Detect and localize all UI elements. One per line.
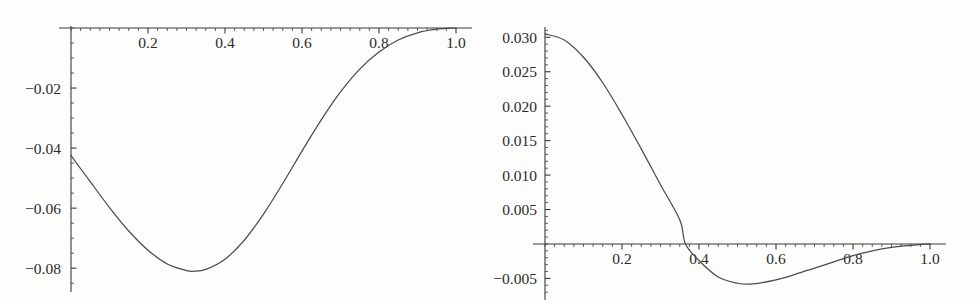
right-plot-svg: 0.20.40.60.81.00.0300.0250.0200.0150.010… [490,0,980,303]
x-ticklabel: 0.4 [215,34,235,51]
x-ticklabel: 0.4 [689,250,709,267]
x-ticklabel: 0.6 [766,250,786,267]
x-ticklabel: 1.0 [446,34,466,51]
left-plot-panel: 0.20.40.60.81.0−0.02−0.04−0.06−0.08 [0,0,490,303]
y-ticklabel-group: −0.02−0.04−0.06−0.08 [25,80,61,277]
x-ticklabel: 0.2 [138,34,157,51]
y-ticklabel: 0.005 [502,201,537,218]
left-plot-svg: 0.20.40.60.81.0−0.02−0.04−0.06−0.08 [0,0,490,303]
right-plot-panel: 0.20.40.60.81.00.0300.0250.0200.0150.010… [490,0,980,303]
y-ticklabel-group: 0.0300.0250.0200.0150.0100.005−0.005 [493,29,537,287]
x-ticklabel: 1.0 [920,250,940,267]
y-tick-group [545,30,551,292]
y-ticklabel: −0.005 [493,270,537,287]
x-tick-group [545,244,930,250]
x-ticklabel-group: 0.20.40.60.81.0 [138,34,466,51]
x-ticklabel: 0.8 [369,34,389,51]
y-ticklabel: 0.015 [502,132,537,149]
data-curve [71,28,456,271]
y-ticklabel: −0.04 [25,140,61,157]
x-tick-group [71,28,456,34]
x-ticklabel-group: 0.20.40.60.81.0 [612,250,940,267]
x-ticklabel: 0.6 [292,34,312,51]
y-ticklabel: 0.020 [502,98,537,115]
two-panel-figure: 0.20.40.60.81.0−0.02−0.04−0.06−0.08 0.20… [0,0,980,303]
x-ticklabel: 0.2 [612,250,631,267]
y-ticklabel: 0.025 [502,63,537,80]
y-ticklabel: −0.06 [25,200,61,217]
x-ticklabel: 0.8 [843,250,863,267]
y-tick-group [71,28,77,283]
y-ticklabel: −0.08 [25,260,61,277]
y-ticklabel: 0.010 [502,167,537,184]
y-ticklabel: 0.030 [502,29,537,46]
y-ticklabel: −0.02 [25,80,61,97]
